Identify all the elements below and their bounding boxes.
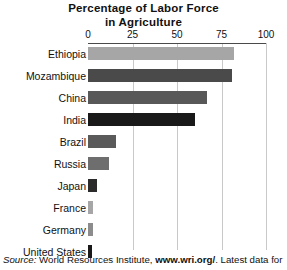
bar-russia bbox=[88, 157, 109, 170]
source-prefix: Source: bbox=[3, 254, 36, 265]
x-tick-label-75: 75 bbox=[216, 29, 227, 40]
bar-row: Mozambique bbox=[0, 66, 287, 88]
bar-france bbox=[88, 201, 93, 214]
bar-row: Germany bbox=[0, 220, 287, 242]
bar-row: India bbox=[0, 110, 287, 132]
bar-row: Brazil bbox=[0, 132, 287, 154]
category-label-brazil: Brazil bbox=[60, 136, 86, 148]
bar-row: Russia bbox=[0, 154, 287, 176]
bar-india bbox=[88, 113, 195, 126]
category-label-germany: Germany bbox=[43, 224, 86, 236]
category-label-mozambique: Mozambique bbox=[26, 70, 86, 82]
agriculture-labor-force-bar-chart: Percentage of Labor Force in Agriculture… bbox=[0, 0, 287, 270]
category-label-ethiopia: Ethiopia bbox=[48, 48, 86, 60]
bar-mozambique bbox=[88, 69, 232, 82]
x-tick-label-25: 25 bbox=[127, 29, 138, 40]
bar-brazil bbox=[88, 135, 116, 148]
bar-japan bbox=[88, 179, 97, 192]
source-note: Source: World Resources Institute, www.w… bbox=[3, 254, 287, 266]
category-label-france: France bbox=[53, 202, 86, 214]
bar-row: China bbox=[0, 88, 287, 110]
bar-china bbox=[88, 91, 207, 104]
source-url: www.wri.org/ bbox=[155, 254, 215, 265]
bar-row: Ethiopia bbox=[0, 44, 287, 66]
source-suffix: . Latest data for bbox=[215, 254, 282, 265]
category-label-japan: Japan bbox=[57, 180, 86, 192]
x-tick-label-0: 0 bbox=[85, 29, 91, 40]
x-tick-label-50: 50 bbox=[171, 29, 182, 40]
category-label-india: India bbox=[63, 114, 86, 126]
category-label-russia: Russia bbox=[54, 158, 86, 170]
bar-germany bbox=[88, 223, 93, 236]
bar-row: Japan bbox=[0, 176, 287, 198]
bar-ethiopia bbox=[88, 47, 234, 60]
category-label-china: China bbox=[59, 92, 86, 104]
x-tick-label-100: 100 bbox=[258, 29, 275, 40]
plot-area: 0255075100 EthiopiaMozambiqueChinaIndiaB… bbox=[0, 0, 287, 270]
bar-row: France bbox=[0, 198, 287, 220]
source-institute: World Resources Institute, bbox=[36, 254, 155, 265]
